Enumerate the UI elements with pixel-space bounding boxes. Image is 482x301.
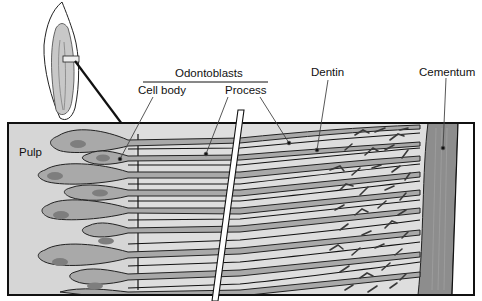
label-cell-body: Cell body bbox=[138, 84, 186, 96]
label-odontoblasts: Odontoblasts bbox=[175, 67, 243, 79]
tooth-icon bbox=[44, 2, 122, 124]
label-cementum: Cementum bbox=[419, 66, 475, 78]
label-process: Process bbox=[225, 84, 267, 96]
zoom-region-marker bbox=[63, 56, 79, 62]
zoom-leader-line bbox=[75, 61, 122, 124]
label-dentin: Dentin bbox=[311, 66, 344, 78]
label-pulp: Pulp bbox=[19, 146, 42, 158]
odontoblast-diagram bbox=[0, 0, 482, 301]
